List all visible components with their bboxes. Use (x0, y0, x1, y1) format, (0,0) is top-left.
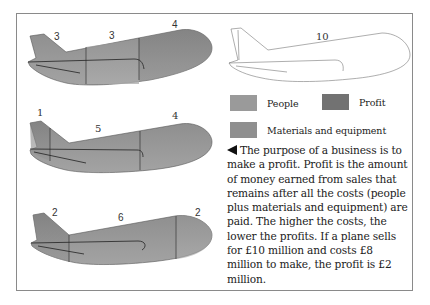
plane-2-segment-1-label: 1 (37, 107, 43, 118)
plane-3: 2 6 2 (31, 207, 212, 265)
plane-1-segment-1-label: 3 (54, 31, 60, 42)
legend-materials: Materials and equipment (230, 122, 386, 138)
legend-label-people: People (267, 98, 298, 109)
plane-1: 3 3 4 (28, 19, 212, 85)
plane-1-segment-2-label: 3 (109, 30, 115, 41)
plane-3-segment-3-label: 2 (195, 207, 201, 218)
legend-profit: Profit (322, 94, 385, 110)
plane-3-segment-2-label: 6 (118, 212, 124, 223)
plane-2-segment-3-label: 4 (172, 110, 178, 121)
left-triangle-arrow-icon (227, 145, 237, 155)
description-text: The purpose of a business is to make a p… (227, 144, 408, 285)
plane-4-total-label: 10 (316, 31, 329, 42)
plane-3-segment-1-label: 2 (52, 207, 58, 218)
plane-2-segment-2-label: 5 (95, 123, 101, 134)
plane-1-segment-3-label: 4 (172, 19, 178, 30)
legend-label-materials: Materials and equipment (267, 125, 386, 136)
legend-swatch-people (230, 95, 257, 111)
legend-swatch-profit (322, 94, 349, 110)
plane-2: 1 5 4 (30, 107, 212, 173)
legend-people: People (230, 95, 298, 111)
legend-label-profit: Profit (359, 97, 385, 108)
description-text-block: The purpose of a business is to make a p… (227, 143, 409, 286)
plane-4-outline: 10 (229, 28, 410, 82)
legend-swatch-materials (230, 122, 257, 138)
